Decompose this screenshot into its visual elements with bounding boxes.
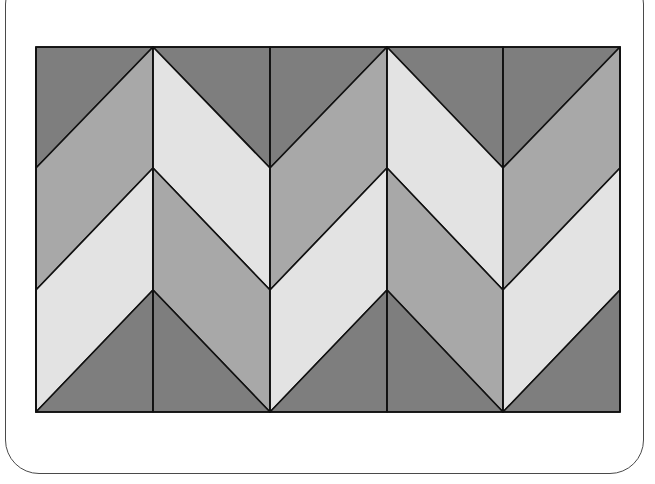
tile-group bbox=[36, 47, 620, 412]
chevron-tiling bbox=[0, 0, 655, 484]
